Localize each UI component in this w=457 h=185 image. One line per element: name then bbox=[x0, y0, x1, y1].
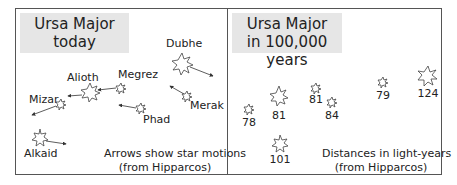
distance-label-81a: 81 bbox=[264, 110, 294, 122]
star-icon-megrez bbox=[116, 83, 126, 94]
star-icon-81a bbox=[270, 86, 288, 106]
left-caption-line2: (from Hipparcos) bbox=[104, 161, 226, 175]
right-caption-line2: (from Hipparcos) bbox=[322, 161, 440, 175]
distance-label-101: 101 bbox=[265, 154, 295, 166]
left-caption: Arrows show star motions (from Hipparcos… bbox=[104, 147, 226, 175]
star-label-alioth: Alioth bbox=[67, 72, 99, 84]
distance-label-124: 124 bbox=[413, 88, 443, 100]
star-icon-79 bbox=[378, 77, 388, 88]
star-label-megrez: Megrez bbox=[118, 69, 158, 81]
left-caption-line1: Arrows show star motions bbox=[104, 147, 226, 161]
distance-label-84: 84 bbox=[317, 110, 347, 122]
distance-label-81b: 81 bbox=[301, 94, 331, 106]
star-icon-alioth bbox=[81, 83, 100, 102]
distance-label-79: 79 bbox=[368, 90, 398, 102]
star-label-alkaid: Alkaid bbox=[24, 148, 58, 160]
right-caption-line1: Distances in light-years bbox=[322, 147, 440, 161]
star-label-mizar: Mizar bbox=[29, 94, 59, 106]
star-label-dubhe: Dubhe bbox=[166, 38, 202, 50]
star-icon-78 bbox=[244, 104, 254, 115]
star-icon-101 bbox=[272, 135, 288, 152]
right-caption: Distances in light-years (from Hipparcos… bbox=[322, 147, 440, 175]
distance-label-78: 78 bbox=[234, 117, 264, 129]
star-icon-alkaid bbox=[32, 129, 48, 146]
star-label-merak: Merak bbox=[190, 100, 224, 112]
star-icon-124 bbox=[418, 66, 437, 86]
star-label-phad: Phad bbox=[143, 114, 170, 126]
star-icon-dubhe bbox=[172, 53, 193, 75]
